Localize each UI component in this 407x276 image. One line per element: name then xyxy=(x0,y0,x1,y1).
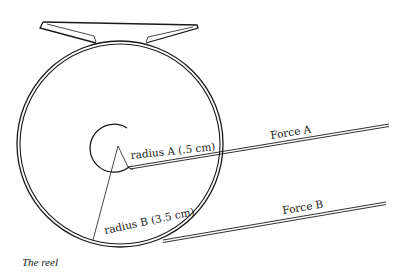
force-a-label: Force A xyxy=(269,123,312,141)
radius-a-line xyxy=(118,146,128,167)
radius-a-label: radius A (.5 cm) xyxy=(130,140,216,161)
inner-spool-arc xyxy=(90,124,129,172)
figure-caption: The reel xyxy=(22,256,58,268)
reel-diagram: radius A (.5 cm) Force A radius B (3.5 c… xyxy=(0,0,407,276)
reel-foot xyxy=(40,22,198,43)
radius-b-label: radius B (3.5 cm) xyxy=(103,205,195,236)
